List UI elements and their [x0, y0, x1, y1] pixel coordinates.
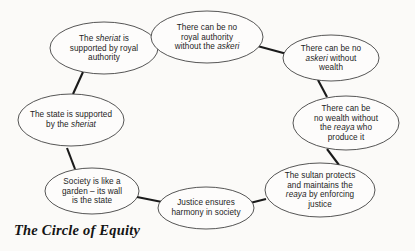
ellipse-layer [18, 11, 399, 229]
connector-society-garden-to-state-sheriat [67, 148, 75, 169]
connector-askeri-wealth-to-wealth-reaya [318, 80, 327, 97]
node-ellipse-wealth-reaya [293, 96, 399, 150]
figure-canvas: The sheriat issupported by royalauthorit… [0, 0, 415, 251]
node-ellipse-justice-harmony [158, 187, 254, 229]
circle-of-equity-diagram [0, 0, 415, 251]
figure-caption: The Circle of Equity [14, 222, 140, 239]
node-ellipse-state-sheriat [18, 94, 124, 146]
node-ellipse-sheriat-royal-authority [50, 22, 158, 74]
node-ellipse-royal-authority-askeri [151, 11, 263, 63]
node-ellipse-society-garden [45, 168, 139, 214]
node-ellipse-askeri-wealth [283, 35, 379, 81]
connector-justice-harmony-to-society-garden [137, 197, 162, 202]
node-ellipse-sultan-protects-reaya [265, 163, 375, 217]
connector-wealth-reaya-to-sultan-protects-reaya [327, 149, 339, 165]
connector-state-sheriat-to-sheriat-royal-authority [73, 72, 83, 94]
